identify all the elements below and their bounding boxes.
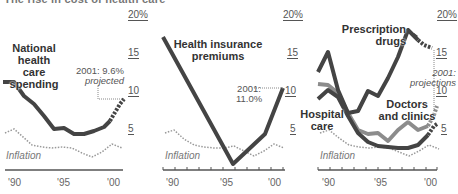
series-label-doctors-clinics: Doctors and clinics — [378, 98, 436, 122]
annotation-categories-2001: 2001: projections — [410, 68, 456, 88]
series-label-prescription-drugs: Prescription drugs — [340, 23, 406, 47]
series-label-premiums: Health insurance premiums — [173, 38, 263, 62]
x-tick-95: '95 — [57, 177, 70, 188]
series-label-hospital-care: Hospital care — [300, 108, 344, 132]
x-tick-95: '95 — [220, 177, 233, 188]
y-tick-20: 20% — [128, 10, 148, 21]
inflation-label: Inflation — [6, 150, 41, 161]
y-tick-10: 10 — [128, 86, 139, 97]
y-tick-5: 5 — [128, 124, 134, 135]
national-spending-projected — [110, 99, 124, 121]
y-tick-5: 5 — [290, 124, 296, 135]
inflation-label: Inflation — [165, 150, 200, 161]
x-tick-95: '95 — [374, 177, 387, 188]
y-tick-20: 20% — [437, 10, 457, 21]
y-tick-10: 10 — [285, 86, 296, 97]
x-tick-90: '90 — [166, 177, 179, 188]
prescription-drugs-projected — [418, 40, 432, 48]
y-tick-15: 15 — [436, 48, 447, 59]
y-tick-5: 5 — [441, 124, 447, 135]
annotation-leader — [98, 86, 124, 99]
y-tick-15: 15 — [128, 48, 139, 59]
x-tick-00: '00 — [424, 177, 437, 188]
inflation-label: Inflation — [320, 150, 355, 161]
x-tick-90: '90 — [8, 177, 21, 188]
series-label-national-spending: National health care spending — [6, 42, 62, 90]
x-tick-00: '00 — [268, 177, 281, 188]
annotation-national-2001: 2001: 9.6% projected — [72, 66, 124, 86]
x-tick-00: '00 — [107, 177, 120, 188]
y-tick-20: 20% — [283, 10, 303, 21]
x-tick-90: '90 — [322, 177, 335, 188]
y-tick-15: 15 — [287, 48, 298, 59]
annotation-premiums-2001: 2001: 11.0% — [232, 84, 266, 104]
